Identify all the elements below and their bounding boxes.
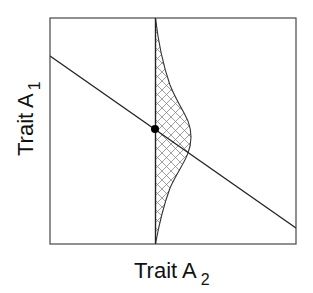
trait-diagram: Trait A2 Trait A1 [0,0,313,293]
y-axis-label: Trait A1 [13,81,43,156]
intersection-dot [151,125,159,133]
regression-line [50,56,296,228]
distribution-curve [156,18,192,244]
x-axis-label: Trait A2 [134,258,210,288]
diagram-canvas: Trait A2 Trait A1 [0,0,313,293]
